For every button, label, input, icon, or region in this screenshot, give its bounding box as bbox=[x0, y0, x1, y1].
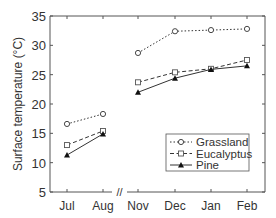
square-marker bbox=[65, 143, 70, 148]
circle-marker bbox=[244, 26, 249, 31]
y-tick-label: 25 bbox=[32, 68, 46, 83]
series-line bbox=[138, 66, 247, 92]
x-tick-label: Dec bbox=[164, 199, 185, 213]
legend-label: Grassland bbox=[196, 136, 248, 148]
circle-marker bbox=[172, 29, 177, 34]
square-marker bbox=[245, 58, 250, 63]
series-line bbox=[67, 114, 103, 124]
x-tick-label: Nov bbox=[127, 199, 148, 213]
x-tick-label: Jul bbox=[59, 199, 74, 213]
legend: GrasslandEucalyptusPine bbox=[166, 134, 253, 171]
axes: //5101520253035JulAugNovDecJanFebSurface… bbox=[11, 9, 265, 213]
square-marker bbox=[136, 80, 141, 85]
triangle-marker bbox=[64, 152, 70, 158]
x-tick-label: Aug bbox=[92, 199, 113, 213]
series-line bbox=[67, 131, 103, 145]
legend-label: Pine bbox=[196, 159, 219, 171]
series-line bbox=[67, 134, 103, 155]
y-axis-label: Surface temperature (°C) bbox=[11, 37, 25, 171]
y-tick-label: 20 bbox=[32, 97, 46, 112]
circle-marker bbox=[100, 111, 105, 116]
line-chart: //5101520253035JulAugNovDecJanFebSurface… bbox=[0, 0, 276, 218]
square-marker bbox=[173, 70, 178, 75]
legend-label: Eucalyptus bbox=[196, 148, 253, 160]
circle-marker bbox=[64, 121, 69, 126]
circle-marker bbox=[178, 139, 183, 144]
triangle-marker bbox=[135, 89, 141, 95]
x-tick-label: Jan bbox=[201, 199, 220, 213]
y-tick-label: 15 bbox=[32, 126, 46, 141]
y-tick-label: 5 bbox=[39, 185, 46, 200]
y-tick-label: 10 bbox=[32, 156, 46, 171]
square-marker bbox=[179, 151, 184, 156]
circle-marker bbox=[208, 27, 213, 32]
axis-break-marker: // bbox=[116, 186, 123, 198]
series-grassland bbox=[64, 26, 249, 126]
y-tick-label: 35 bbox=[32, 9, 46, 24]
y-tick-label: 30 bbox=[32, 38, 46, 53]
circle-marker bbox=[135, 50, 140, 55]
series-line bbox=[138, 29, 247, 53]
series-line bbox=[138, 60, 247, 82]
x-tick-label: Feb bbox=[237, 199, 258, 213]
